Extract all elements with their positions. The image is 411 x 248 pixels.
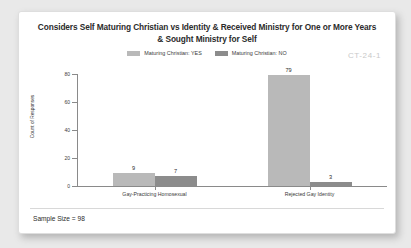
bar-value-label: 7 [174,168,177,174]
x-axis-line [77,186,387,187]
bar-value-label: 3 [329,174,332,180]
bar: 3 [310,182,352,186]
chart-title-line-1: Considers Self Maturing Christian vs Ide… [19,22,395,34]
chart-title-line-2: & Sought Ministry for Self [19,34,395,46]
y-axis-title: Count of Responses [30,72,35,162]
legend-item-yes: Maturing Christian: YES [127,50,201,56]
bar-value-label: 9 [132,165,135,171]
chart-legend: Maturing Christian: YES Maturing Christi… [19,50,395,56]
legend-swatch-no [215,51,228,56]
legend-item-no: Maturing Christian: NO [215,50,287,56]
bar: 7 [155,176,197,186]
legend-swatch-yes [127,51,140,56]
legend-label-no: Maturing Christian: NO [232,50,287,56]
bars-layer: 97793 [77,74,387,186]
x-axis-category-label: Rejected Gay Identity [285,191,335,197]
chart-title: Considers Self Maturing Christian vs Ide… [19,22,395,45]
plot-area: Count of Responses 020406080 97793 Gay-P… [19,64,395,204]
y-axis-tick-label: 40 [64,127,70,133]
y-axis-tick-label: 0 [67,183,70,189]
y-axis-tick-label: 60 [64,99,70,105]
y-axis-tick: 0 [72,186,77,187]
screenshot-root: Considers Self Maturing Christian vs Ide… [0,0,411,248]
footer-divider [30,208,384,209]
y-axis-tick-mark [72,186,77,187]
legend-label-yes: Maturing Christian: YES [144,50,201,56]
chart-card: Considers Self Maturing Christian vs Ide… [18,11,396,234]
y-axis-tick-label: 20 [64,155,70,161]
bar-value-label: 79 [285,67,291,73]
y-axis-tick-label: 80 [64,71,70,77]
watermark-label: CT-24-1 [348,51,381,60]
x-axis-category-label: Gay-Practicing Homosexual [122,191,186,197]
sample-size-label: Sample Size = 98 [33,215,85,222]
x-axis-tick [310,186,311,190]
bar: 9 [113,173,155,186]
x-axis-tick [155,186,156,190]
bar: 79 [268,75,310,186]
